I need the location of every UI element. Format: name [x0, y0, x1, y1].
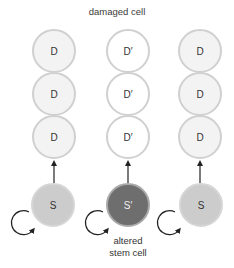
- arrows-layer: [0, 0, 234, 268]
- self-renewal-arrow-icon: [12, 211, 33, 235]
- caption-line: altered: [98, 235, 158, 247]
- self-renewal-arrow-icon: [86, 211, 107, 235]
- caption-line: stem cell: [98, 247, 158, 259]
- self-renewal-arrow-icon: [158, 211, 179, 235]
- altered-stem-cell-caption: altered stem cell: [98, 235, 158, 259]
